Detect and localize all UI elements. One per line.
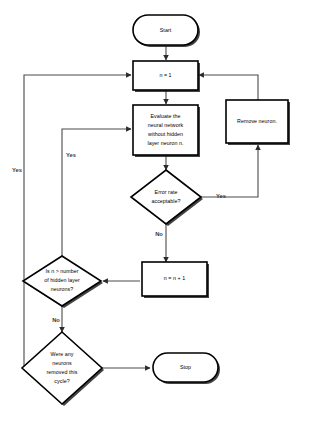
node-any-removed-line-4: cycle? [54,378,69,384]
node-remove-neuron[interactable]: Remove neuron. [226,100,290,145]
edge-any-removed-yes-to-init [24,75,131,368]
edge-label-any-removed-yes: Yes [12,167,22,173]
node-start[interactable]: Start [133,15,200,47]
node-any-removed-line-1: Were any [51,351,74,357]
edge-check-count-yes-to-evaluate [62,129,131,256]
flowchart-diagram: Yes No Yes No Yes Start n = 1 Evaluate t… [0,0,310,425]
node-evaluate[interactable]: Evaluate the neural network without hidd… [133,105,200,157]
edge-label-check-count-no: No [52,317,60,323]
node-evaluate-line-3: without hidden [148,131,183,137]
node-increment-label: n = n + 1 [164,275,185,281]
node-increment[interactable]: n = n + 1 [142,262,209,298]
node-init[interactable]: n = 1 [133,61,200,92]
node-error-rate-decision[interactable]: Error rate acceptable? [131,170,203,226]
node-stop-label: Stop [180,364,191,370]
edge-remove-to-init [199,75,258,100]
node-stop[interactable]: Stop [153,353,220,384]
node-check-count-line-3: neurons? [51,286,74,292]
edge-label-error-rate-yes: Yes [216,193,226,199]
node-init-label: n = 1 [159,72,171,78]
edge-label-check-count-yes: Yes [66,152,76,158]
node-any-removed-line-2: neurons [52,360,72,366]
node-any-removed-line-3: removed this [47,369,78,375]
node-start-label: Start [160,27,172,33]
node-check-count-decision[interactable]: Is n > number of hidden layer neurons? [23,256,103,308]
node-remove-neuron-label: Remove neuron. [237,118,277,124]
edge-error-rate-yes-to-remove [199,145,258,197]
node-any-removed-decision[interactable]: Were any neurons removed this cycle? [22,332,104,406]
edge-label-error-rate-no: No [155,231,163,237]
node-check-count-line-2: of hidden layer [44,277,80,283]
node-evaluate-line-4: layer neuron n. [147,140,183,146]
node-evaluate-line-2: neural network [148,122,184,128]
node-check-count-line-1: Is n > number [45,268,78,274]
node-error-rate-line-2: acceptable? [151,198,180,204]
node-error-rate-line-1: Error rate [155,189,178,195]
node-evaluate-line-1: Evaluate the [150,113,180,119]
